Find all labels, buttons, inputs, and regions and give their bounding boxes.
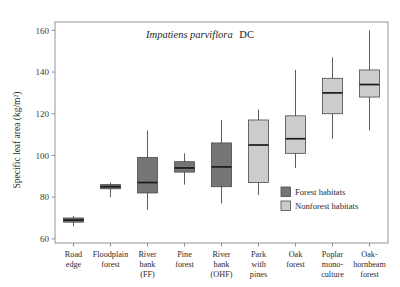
y-tick-label: 80: [40, 192, 50, 202]
box-plot-item: [212, 120, 232, 203]
chart-title-species: Impatiens parviflora: [145, 29, 233, 40]
x-tick-label: Pineforest: [175, 250, 194, 269]
box-plot-item: [286, 70, 306, 168]
x-tick-label: Riverbank(OHF): [211, 250, 233, 279]
x-axis: RoadedgeFloodplainforestRiverbank(FF)Pin…: [65, 243, 387, 279]
box-rect: [138, 158, 158, 193]
box-rect: [212, 143, 232, 187]
legend-swatch: [281, 201, 291, 211]
x-tick-label: Oakforest: [286, 250, 305, 269]
box-plot-figure: 6080100120140160 RoadedgeFloodplainfores…: [0, 0, 400, 287]
box-plot-item: [64, 216, 84, 226]
box-rect: [286, 116, 306, 154]
x-tick-label: Floodplainforest: [93, 250, 128, 269]
chart-canvas: 6080100120140160 RoadedgeFloodplainfores…: [0, 0, 400, 287]
legend: Forest habitatsNonforest habitats: [281, 187, 359, 211]
legend-label: Forest habitats: [295, 187, 346, 197]
box-plot-item: [360, 30, 380, 130]
chart-title: Impatiens parviflora DC: [145, 29, 254, 40]
legend-swatch: [281, 187, 291, 197]
chart-title-authority: DC: [239, 29, 254, 40]
y-axis: 6080100120140160: [36, 26, 56, 244]
y-axis-title: Specific leaf area (kg/m²): [12, 91, 23, 188]
box-plot-item: [101, 183, 121, 198]
box-rect: [360, 70, 380, 97]
box-plot-item: [138, 130, 158, 209]
box-rect: [175, 162, 195, 172]
x-tick-label: Parkwithpines: [250, 250, 267, 279]
y-tick-label: 120: [36, 109, 50, 119]
y-tick-label: 60: [40, 234, 50, 244]
y-tick-label: 100: [36, 151, 50, 161]
x-tick-label: Roadedge: [65, 250, 82, 269]
box-plot-item: [323, 57, 343, 138]
box-plot-item: [249, 110, 269, 195]
box-plot-item: [175, 153, 195, 184]
y-tick-label: 140: [36, 67, 50, 77]
legend-label: Nonforest habitats: [295, 201, 359, 211]
box-rect: [249, 120, 269, 183]
x-tick-label: Oak-hornbeamforest: [353, 250, 386, 279]
box-rect: [323, 78, 343, 113]
y-tick-label: 160: [36, 26, 50, 36]
x-tick-label: Poplarmono-culture: [321, 250, 344, 279]
x-tick-label: Riverbank(FF): [138, 250, 156, 279]
